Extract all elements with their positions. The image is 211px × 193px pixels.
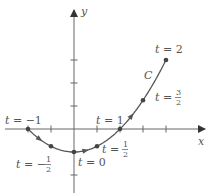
svg-text:1: 1: [46, 155, 51, 164]
parametric-curve-figure: x y C t = −1 t = 0 t = 1 t = 2 t = − 1 2…: [0, 0, 211, 193]
plot-canvas: x y C t = −1 t = 0 t = 1 t = 2 t = − 1 2…: [0, 0, 211, 193]
x-axis-label: x: [198, 135, 205, 148]
parameter-point: [141, 98, 146, 103]
parameter-point: [72, 150, 77, 155]
svg-text:t = −: t = −: [16, 158, 46, 171]
parameter-point: [118, 127, 123, 132]
svg-text:1: 1: [123, 140, 128, 149]
svg-text:t =: t =: [155, 91, 172, 104]
label-t-1: t = 1: [96, 114, 124, 127]
parameter-point: [95, 144, 100, 149]
svg-text:2: 2: [123, 150, 128, 159]
y-axis-label: y: [80, 5, 88, 18]
label-t-neg-half: t = − 1 2: [16, 155, 51, 174]
label-t-three-halves: t = 3 2: [155, 88, 181, 107]
parameter-point: [49, 144, 54, 149]
svg-text:3: 3: [176, 88, 181, 97]
label-t-half: t = 1 2: [102, 140, 128, 159]
label-t-0: t = 0: [78, 156, 106, 169]
label-t-neg1: t = −1: [5, 114, 42, 127]
svg-text:2: 2: [46, 165, 51, 174]
curve-label-c: C: [144, 69, 153, 82]
direction-arrow-icon: [82, 147, 90, 154]
parameter-point: [26, 127, 31, 132]
svg-text:2: 2: [176, 98, 181, 107]
parameter-point: [164, 58, 169, 63]
svg-text:t =: t =: [102, 143, 119, 156]
label-t-2: t = 2: [155, 43, 183, 56]
